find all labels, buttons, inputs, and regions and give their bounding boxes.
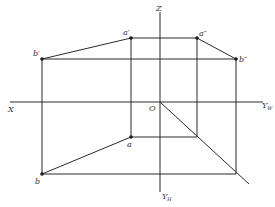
label-yw-axis: YW — [262, 101, 273, 111]
label-a-double-prime: a″ — [199, 29, 207, 38]
label-yh-axis: YH — [162, 192, 172, 202]
label-x-axis: X — [7, 105, 14, 114]
point-b — [40, 172, 44, 176]
label-z-axis: Z — [155, 4, 162, 13]
segment-a2-b2 — [197, 38, 236, 59]
point-a-prime — [129, 36, 133, 40]
segment-a1-b1 — [42, 38, 131, 59]
point-b-double-prime — [234, 57, 238, 61]
label-b-double-prime: b″ — [239, 55, 247, 64]
label-origin: O — [149, 104, 156, 113]
segment-a-b — [42, 137, 131, 174]
point-b-prime — [40, 57, 44, 61]
point-a — [129, 135, 133, 139]
label-a-prime: a′ — [123, 28, 130, 37]
label-a: a — [127, 140, 132, 149]
label-b-prime: b′ — [33, 49, 40, 58]
projection-diagram: b′ a′ a″ b″ a b X Z O YW YH — [0, 0, 275, 207]
label-b: b — [35, 177, 40, 186]
